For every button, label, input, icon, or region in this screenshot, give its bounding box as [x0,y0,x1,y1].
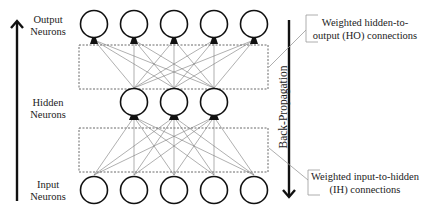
input-neuron [201,177,228,204]
back-propagation-label: Back-Propagation [277,57,289,157]
input-neuron [81,177,108,204]
input-neurons-label: Input Neurons [28,179,68,203]
input-label-line1: Input [28,179,68,191]
hidden-neuron [201,89,228,116]
hidden-neuron [121,89,148,116]
input-neurons [81,177,268,204]
ih-edges [94,117,254,175]
ih-callout-line2: (IH) connections [309,183,421,196]
hidden-neurons [121,89,228,116]
output-label-line2: Neurons [28,26,68,38]
ih-connections-callout: Weighted input-to-hidden (IH) connection… [309,170,421,196]
output-arrowheads [90,38,258,44]
forward-arrow [11,21,23,201]
ih-callout-line1: Weighted input-to-hidden [309,170,421,183]
output-neuron [201,11,228,38]
output-neuron [81,11,108,38]
hidden-neurons-label: Hidden Neurons [28,97,68,121]
hidden-label-line2: Neurons [28,109,68,121]
ho-edges [94,40,254,88]
hidden-label-line1: Hidden [28,97,68,109]
output-neurons [81,11,268,38]
hidden-arrowheads [129,115,219,120]
input-neuron [241,177,268,204]
output-label-line1: Output [28,14,68,26]
output-neuron [241,11,268,38]
ho-callout-line1: Weighted hidden-to- [310,16,420,29]
output-neuron [121,11,148,38]
input-neuron [161,177,188,204]
output-neuron [161,11,188,38]
ho-connections-box [79,45,268,89]
hidden-neuron [161,89,188,116]
input-neuron [121,177,148,204]
output-neurons-label: Output Neurons [28,14,68,38]
input-label-line2: Neurons [28,191,68,203]
ho-callout-line2: output (HO) connections [310,29,420,42]
ho-connections-callout: Weighted hidden-to- output (HO) connecti… [310,16,420,42]
